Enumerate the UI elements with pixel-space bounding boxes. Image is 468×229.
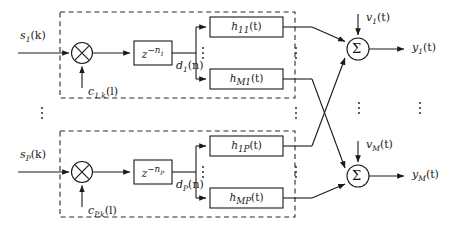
ellipsis-outputs [418,102,421,117]
route-hM1-to-sumM [312,79,345,168]
noise-vM-label: vM(t) [366,139,393,153]
branch-1-code-label: c1,k(l) [88,86,118,100]
sum-node-1-symbol: Σ [352,41,361,56]
branch-1-delay-label: z−n1 [134,46,172,59]
mimo-channel-diagram: Σ Σ s1(k) c1,k(l) z−n1 d1(n) h11(t) hM1(… [0,0,468,229]
ellipsis-branch-1-filter-gap [294,47,297,62]
output-y1-label: y1(t) [412,42,436,56]
ellipsis-branch-1-filters [201,47,204,62]
noise-v1-label: v1(t) [366,12,390,26]
branch-P-delayed-label: dP(n) [176,179,204,193]
route-hMP-to-sumM [312,184,345,198]
filter-h1P-label: h1P(t) [210,140,283,154]
route-h11-to-sum1 [312,27,345,42]
filter-hM1-label: hM1(t) [210,73,283,87]
ellipsis-branches [40,107,43,122]
ellipsis-sum-nodes [357,102,360,117]
sum-node-M-symbol: Σ [352,168,361,183]
branch-P-input-label: sP(k) [20,149,46,163]
route-h1P-to-sum1 [312,58,345,146]
branch-1-input-label: s1(k) [20,30,46,44]
filter-hMP-label: hMP(t) [210,192,283,206]
branch-1-delayed-label: d1(n) [176,60,204,74]
branch-P-code-label: cP,k(l) [88,205,117,219]
output-yM-label: yM(t) [412,169,439,183]
branch-P-delay-label: z−nP [134,165,172,178]
ellipsis-branch-P-filters [201,166,204,181]
ellipsis-dashed-boxes [294,107,297,122]
filter-h11-label: h11(t) [210,21,283,35]
ellipsis-branch-P-filter-gap [294,166,297,181]
